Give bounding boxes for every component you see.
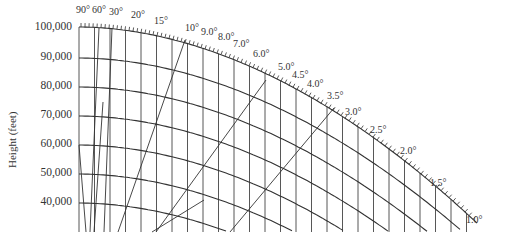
y-tick-label: 100,000 bbox=[0, 20, 72, 32]
angle-label: 9.0° bbox=[201, 26, 218, 37]
angle-label: 30° bbox=[109, 6, 123, 17]
y-tick-label: 40,000 bbox=[0, 195, 72, 207]
angle-label: 3.5° bbox=[327, 90, 344, 101]
angle-label: 90° bbox=[76, 4, 90, 15]
angle-label: 60° bbox=[92, 4, 106, 15]
angle-label: 7.0° bbox=[233, 38, 250, 49]
height-curve bbox=[79, 87, 427, 231]
range-gridlines bbox=[79, 27, 467, 232]
angle-label: 15° bbox=[154, 15, 168, 26]
height-curve bbox=[79, 174, 292, 231]
y-axis-title: Height (feet) bbox=[6, 112, 18, 169]
y-tick-label: 90,000 bbox=[0, 50, 72, 62]
lobe-line bbox=[230, 108, 334, 232]
angle-label: 3.0° bbox=[345, 106, 362, 117]
lobe-line bbox=[79, 145, 86, 232]
angle-label: 10° bbox=[185, 22, 199, 33]
height-curve bbox=[79, 203, 226, 231]
angle-scale-arc bbox=[79, 27, 477, 223]
angle-label: 1.0° bbox=[466, 214, 483, 225]
angle-label: 6.0° bbox=[253, 48, 270, 59]
chart-canvas bbox=[0, 0, 505, 244]
angle-label: 4.0° bbox=[307, 78, 324, 89]
angle-label: 1.5° bbox=[430, 177, 447, 188]
lobe-line bbox=[94, 102, 103, 232]
lobe-line bbox=[118, 40, 185, 232]
lobe-line bbox=[152, 200, 204, 232]
height-curve bbox=[79, 145, 343, 230]
angle-label: 2.0° bbox=[400, 145, 417, 156]
angle-label: 20° bbox=[131, 9, 145, 20]
angle-label: 2.5° bbox=[370, 124, 387, 135]
y-tick-label: 80,000 bbox=[0, 79, 72, 91]
height-curve bbox=[79, 58, 460, 229]
outer-arc bbox=[79, 27, 477, 223]
